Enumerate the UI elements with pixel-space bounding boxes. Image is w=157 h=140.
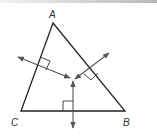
perpendicular-bisector-ac [18, 57, 70, 78]
triangle-diagram: A C B [0, 0, 157, 140]
vertex-label-c: C [11, 117, 19, 128]
vertex-label-a: A [48, 9, 56, 20]
vertex-label-b: B [123, 117, 130, 128]
right-angle-mark-cb [63, 101, 73, 111]
right-angle-mark-ab [84, 73, 98, 80]
